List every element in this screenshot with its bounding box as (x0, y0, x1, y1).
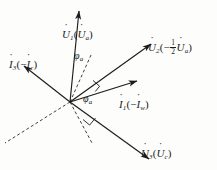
label-i1-paren-open: (− (126, 98, 136, 110)
label-phi-upper: φa (74, 51, 83, 63)
label-u3-inner-symbol: U (156, 148, 164, 160)
label-i1-paren-close: ) (145, 98, 149, 110)
label-u3-symbol: U (141, 148, 149, 160)
reference-line-negative-axis (5, 102, 70, 143)
phasor-diagram-figure: U1(Ua) U2(−12Ua) I3(−Ic) I1(−Iw) U3(Uc) … (0, 0, 217, 170)
label-u1: U1(Ua) (62, 29, 93, 42)
label-i3-symbol: I (9, 59, 13, 71)
label-i3: I3(−Ic) (9, 59, 37, 72)
label-u2: U2(−12Ua) (148, 39, 192, 56)
reference-line-phi-lower (70, 102, 92, 143)
label-u1-symbol: U (62, 29, 70, 41)
label-u2-paren-open: (− (160, 41, 170, 53)
label-i3-paren-close: ) (33, 58, 37, 70)
phasor-vector-canvas (0, 0, 217, 170)
label-u3-paren-close: ) (168, 147, 172, 159)
label-phi-lower: φa (83, 94, 92, 106)
label-u1-paren-close: ) (89, 28, 93, 40)
label-i3-paren-open: (− (16, 58, 26, 70)
label-i1-inner-symbol: I (136, 99, 140, 111)
label-phi-upper-subscript: a (80, 55, 84, 63)
label-u2-fraction-denominator: 2 (170, 48, 176, 56)
label-u2-paren-close: ) (188, 41, 192, 53)
label-i3-inner-symbol: I (26, 59, 30, 71)
label-phi-lower-subscript: a (89, 98, 93, 106)
label-i1-symbol: I (119, 99, 123, 111)
label-u2-fraction: 12 (170, 39, 176, 55)
label-u1-inner-symbol: U (77, 29, 85, 41)
label-u3: U3(Uc) (141, 148, 171, 161)
label-u2-symbol: U (148, 42, 156, 54)
label-i1: I1(−Iw) (119, 99, 149, 112)
label-u2-inner-symbol: U (177, 42, 185, 54)
